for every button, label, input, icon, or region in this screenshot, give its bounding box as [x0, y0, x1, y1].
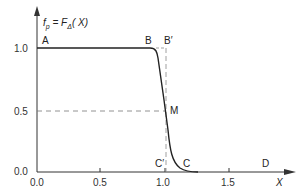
- x-axis-arrow-icon: [284, 169, 296, 175]
- y-tick-label: 0.5: [14, 106, 28, 117]
- x-tick-label: 0.0: [30, 177, 44, 188]
- point-label-m: M: [170, 105, 178, 116]
- x-tick-label: 0.5: [93, 177, 107, 188]
- point-label-a: A: [42, 35, 49, 46]
- y-axis-label: fp = FΔ( X): [43, 17, 88, 31]
- point-label-b-prime: B′: [164, 35, 173, 46]
- chart: 1.0 0.5 0.0 0.0 0.5 1.0 1.5 fp = FΔ( X) …: [0, 0, 305, 193]
- x-tick-label: 1.5: [221, 177, 235, 188]
- point-label-d: D: [262, 158, 269, 169]
- point-label-c: C: [183, 158, 190, 169]
- point-label-b: B: [145, 35, 152, 46]
- x-axis-label: X: [275, 177, 283, 188]
- y-tick-label: 1.0: [14, 43, 28, 54]
- x-tick-label: 1.0: [156, 177, 170, 188]
- point-label-c-prime: C′: [155, 158, 164, 169]
- y-tick-label: 0.0: [14, 166, 28, 177]
- y-axis-arrow-icon: [34, 6, 40, 16]
